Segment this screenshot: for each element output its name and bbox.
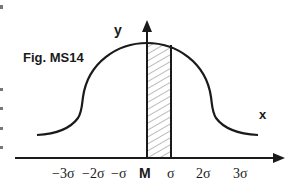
cropped-text-fragment [0, 146, 3, 149]
x-axis-arrow-icon [273, 153, 285, 163]
cropped-text-fragment [0, 107, 3, 110]
cropped-text-fragment [0, 127, 3, 130]
figure-caption: Fig. MS14 [23, 50, 84, 65]
y-axis-arrow-icon [142, 20, 152, 32]
normal-curve-diagram: y Fig. MS14 x −3σ −2σ −σ M σ 2σ 3σ [0, 0, 301, 191]
tick-mean: M [139, 165, 151, 181]
tick-minus-3sigma: −3σ [52, 166, 75, 181]
tick-minus-sigma: −σ [111, 166, 127, 181]
cropped-text-fragment [0, 5, 3, 9]
y-axis-label: y [114, 22, 122, 38]
tick-sigma: σ [167, 166, 175, 181]
shaded-area-m-to-sigma [147, 40, 171, 158]
x-tick-labels: −3σ −2σ −σ M σ 2σ 3σ [52, 165, 248, 181]
tick-minus-2sigma: −2σ [82, 166, 105, 181]
tick-2sigma: 2σ [196, 166, 211, 181]
x-axis-label: x [259, 107, 267, 122]
cropped-text-fragment [0, 88, 3, 91]
tick-3sigma: 3σ [233, 166, 248, 181]
